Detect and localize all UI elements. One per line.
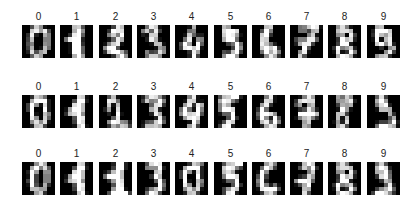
digit-image bbox=[60, 95, 93, 128]
digit-image bbox=[22, 95, 55, 128]
digit-label: 7 bbox=[290, 149, 323, 159]
digit-row: 0123456789 bbox=[0, 149, 418, 209]
digit-image bbox=[99, 162, 132, 195]
digit-image bbox=[137, 162, 170, 195]
digit-image bbox=[137, 25, 170, 58]
digit-label: 2 bbox=[99, 82, 132, 92]
digit-image bbox=[367, 95, 400, 128]
digit-label: 0 bbox=[22, 82, 55, 92]
digit-label: 7 bbox=[290, 12, 323, 22]
digit-label: 5 bbox=[214, 12, 247, 22]
digit-image bbox=[290, 25, 323, 58]
digit-image bbox=[99, 95, 132, 128]
digit-image bbox=[137, 95, 170, 128]
digit-label: 1 bbox=[60, 12, 93, 22]
digit-label: 1 bbox=[60, 82, 93, 92]
digit-image bbox=[367, 162, 400, 195]
digit-image bbox=[22, 162, 55, 195]
digit-label: 1 bbox=[60, 149, 93, 159]
digit-label: 3 bbox=[137, 149, 170, 159]
digit-label: 9 bbox=[367, 12, 400, 22]
digit-image bbox=[290, 162, 323, 195]
digit-image bbox=[175, 95, 208, 128]
digit-label: 4 bbox=[175, 12, 208, 22]
digit-label: 2 bbox=[99, 149, 132, 159]
digit-image bbox=[99, 25, 132, 58]
digit-label: 5 bbox=[214, 149, 247, 159]
digit-label: 6 bbox=[252, 82, 285, 92]
digit-image bbox=[60, 162, 93, 195]
digit-label: 4 bbox=[175, 82, 208, 92]
digit-label: 6 bbox=[252, 12, 285, 22]
digit-image bbox=[328, 162, 361, 195]
digit-label: 6 bbox=[252, 149, 285, 159]
digit-image bbox=[252, 95, 285, 128]
digit-image bbox=[328, 95, 361, 128]
digit-image bbox=[290, 95, 323, 128]
digit-image bbox=[214, 95, 247, 128]
digit-label: 9 bbox=[367, 82, 400, 92]
digit-label: 0 bbox=[22, 12, 55, 22]
digit-label: 9 bbox=[367, 149, 400, 159]
digit-image bbox=[214, 25, 247, 58]
digit-image bbox=[367, 25, 400, 58]
digit-image bbox=[252, 25, 285, 58]
digit-row: 0123456789 bbox=[0, 82, 418, 142]
digit-label: 3 bbox=[137, 82, 170, 92]
digit-image bbox=[60, 25, 93, 58]
digit-label: 8 bbox=[328, 12, 361, 22]
digit-image bbox=[328, 25, 361, 58]
digit-image bbox=[214, 162, 247, 195]
digit-label: 4 bbox=[175, 149, 208, 159]
digit-label: 3 bbox=[137, 12, 170, 22]
digit-label: 2 bbox=[99, 12, 132, 22]
digit-image bbox=[252, 162, 285, 195]
digit-image bbox=[175, 25, 208, 58]
digit-label: 8 bbox=[328, 82, 361, 92]
digit-image bbox=[22, 25, 55, 58]
digit-label: 0 bbox=[22, 149, 55, 159]
digit-label: 8 bbox=[328, 149, 361, 159]
digit-row: 0123456789 bbox=[0, 12, 418, 72]
digit-label: 5 bbox=[214, 82, 247, 92]
digit-image bbox=[175, 162, 208, 195]
digit-label: 7 bbox=[290, 82, 323, 92]
